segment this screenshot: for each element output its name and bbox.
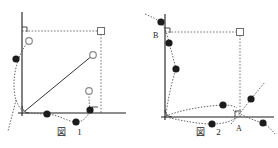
filled-point-baseline-mid [43, 110, 50, 117]
baseline-wave-curve [25, 110, 90, 122]
through-a-diagonal-up [231, 82, 265, 124]
filled-point-above-b [157, 18, 164, 25]
left-descending-curve [145, 14, 176, 116]
filled-point-left-upper [12, 55, 19, 62]
figure-1-caption: 図 1 [0, 126, 139, 138]
dashed-bounding-box [165, 32, 240, 117]
filled-point-inner-right [219, 101, 226, 108]
point-label-b: B [153, 31, 158, 40]
figure-board: 図 1 [0, 0, 278, 148]
figure-panel-1: 図 1 [0, 0, 139, 148]
origin-angle-arc-icon [22, 106, 29, 113]
open-point-upper-left [26, 38, 33, 45]
figure-panel-2: B A 図 2 [139, 0, 278, 148]
corner-square-node [237, 29, 244, 36]
lower-chord-curve [166, 117, 237, 124]
filled-point-baseline-low [72, 118, 79, 125]
figure-1-caption-index: 1 [77, 127, 82, 137]
filled-point-upper-right [247, 95, 254, 102]
figure-1-caption-label: 図 [57, 127, 68, 137]
diagonal-segment [25, 55, 93, 111]
open-point-diagonal-end [90, 52, 97, 59]
upper-chord-curve [166, 105, 237, 116]
open-point-lower-right [86, 88, 93, 95]
filled-point-below-b [165, 39, 172, 46]
corner-square-node [98, 28, 105, 35]
figure-2-caption: 図 2 [139, 126, 278, 138]
filled-point-right-lower [86, 106, 93, 113]
figure-2-caption-index: 2 [216, 127, 221, 137]
figure-2-caption-label: 図 [196, 127, 207, 137]
filled-point-left-mid [172, 65, 179, 72]
